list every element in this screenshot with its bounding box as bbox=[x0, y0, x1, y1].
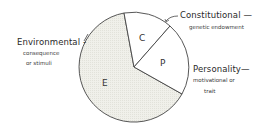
environmental-label: Environmental - bbox=[17, 38, 86, 47]
segment-letter-e: E bbox=[102, 78, 108, 88]
personality-sublabel-1: motivational or bbox=[193, 78, 235, 84]
segment-letter-c: C bbox=[139, 33, 145, 43]
environmental-sublabel-2: or stimuli bbox=[26, 61, 52, 67]
personality-sublabel-2: trait bbox=[204, 89, 215, 95]
constitutional-sublabel: genetic endowment bbox=[189, 25, 244, 31]
constitutional-leader-arrow bbox=[166, 16, 178, 21]
personality-label: Personality— bbox=[193, 65, 250, 74]
environmental-sublabel-1: consequence bbox=[23, 51, 59, 57]
constitutional-label: Constitutional — bbox=[180, 11, 252, 20]
segment-letter-p: P bbox=[160, 58, 166, 68]
